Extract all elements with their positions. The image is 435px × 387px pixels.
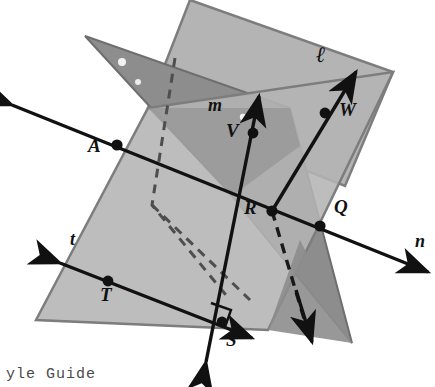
point-dot-Q: [314, 220, 325, 231]
geometry-figure: A V W R Q T S ℓ m n t yle Guide: [0, 0, 435, 387]
line-label-m: m: [208, 96, 222, 114]
point-dot-R: [266, 205, 277, 216]
diagram-canvas: [0, 0, 435, 387]
point-dot-A: [111, 139, 122, 150]
point-label-V: V: [226, 121, 239, 140]
point-label-T: T: [100, 285, 112, 304]
point-dot-W: [320, 108, 331, 119]
line-label-n: n: [415, 232, 425, 250]
planes-group: [36, 0, 393, 343]
point-label-Q: Q: [334, 197, 348, 216]
point-dot-S: [217, 317, 228, 328]
point-label-A: A: [88, 136, 101, 155]
point-label-W: W: [339, 100, 356, 119]
line-label-t: t: [70, 230, 75, 248]
point-dot-V: [248, 128, 259, 139]
point-label-R: R: [244, 198, 257, 217]
point-label-S: S: [226, 330, 237, 349]
line-label-l: ℓ: [316, 44, 325, 66]
footer-text: yle Guide: [6, 366, 96, 383]
